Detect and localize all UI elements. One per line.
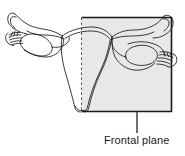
left-broad-ligament: [24, 36, 64, 57]
frontal-plane-figure: Frontal plane: [0, 0, 185, 156]
uterus-body-outline: [61, 36, 80, 112]
anatomy-illustration: [0, 0, 185, 156]
left-ovary-outline: [20, 34, 52, 56]
left-fimbriae: [9, 32, 23, 45]
frontal-plane-label: Frontal plane: [104, 134, 184, 147]
left-ovarian-ligament: [52, 37, 69, 47]
